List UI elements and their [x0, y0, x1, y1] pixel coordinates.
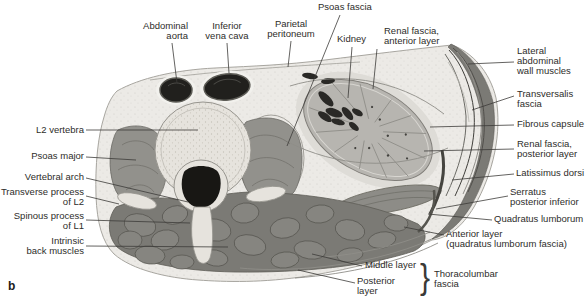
label-vertebral-arch: Vertebral arch: [14, 172, 84, 182]
label-renal-fascia-anterior: Renal fascia, anterior layer: [384, 26, 439, 46]
label-parietal-peritoneum: Parietal peritoneum: [261, 19, 321, 39]
label-thoracolumbar-fascia: Thoracolumbar fascia: [434, 269, 498, 289]
label-psoas-fascia: Psoas fascia: [318, 2, 372, 12]
label-intrinsic-back-muscles: Intrinsic back muscles: [18, 236, 84, 256]
label-lateral-abdominal-wall-muscles: Lateral abdominal wall muscles: [517, 46, 571, 76]
label-psoas-major: Psoas major: [20, 151, 84, 161]
label-abdominal-aorta: Abdominal aorta: [130, 21, 188, 41]
label-serratus-posterior-inferior: Serratus posterior inferior: [510, 187, 579, 207]
abdominal-aorta: [156, 75, 196, 105]
anatomical-illustration: [0, 0, 586, 299]
brace-glyph: }: [420, 257, 430, 297]
label-middle-layer: Middle layer: [365, 260, 416, 270]
label-posterior-layer: Posterior layer: [357, 276, 395, 296]
label-fibrous-capsule: Fibrous capsule: [517, 119, 584, 129]
figure-panel: Abdominal aorta Inferior vena cava Parie…: [0, 0, 586, 299]
panel-letter: b: [8, 279, 15, 293]
label-anterior-layer-ql: Anterior layer (quadratus lumborum fasci…: [446, 229, 567, 249]
label-spinous-process-l1: Spinous process of L1: [6, 211, 84, 231]
label-kidney: Kidney: [337, 34, 366, 44]
label-l2-vertebra: L2 vertebra: [20, 125, 84, 135]
label-transverse-process-l2: Transverse process of L2: [0, 187, 84, 207]
label-renal-fascia-posterior: Renal fascia, posterior layer: [517, 139, 577, 159]
label-transversalis-fascia: Transversalis fascia: [517, 89, 573, 109]
label-quadratus-lumborum: Quadratus lumborum: [494, 214, 583, 224]
label-inferior-vena-cava: Inferior vena cava: [197, 21, 257, 41]
label-latissimus-dorsi: Latissimus dorsi: [516, 168, 584, 178]
